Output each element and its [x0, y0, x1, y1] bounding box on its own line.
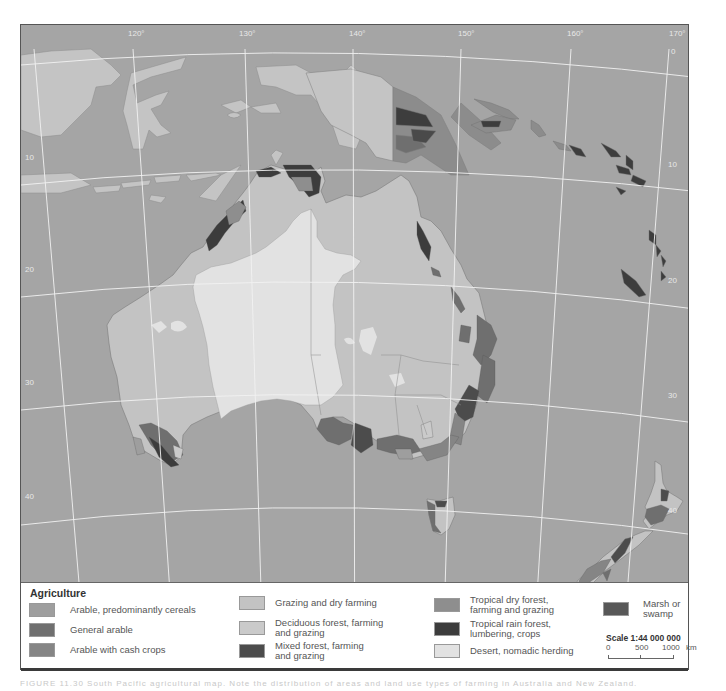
legend-item-general-arable: General arable [29, 623, 133, 637]
latitude-label-left-10: 10 [25, 153, 34, 162]
legend-label: Tropical rain forest, lumbering, crops [470, 619, 551, 639]
legend-item-desert: Desert, nomadic herding [434, 644, 574, 658]
scale-tick-0: 0 [606, 643, 610, 652]
legend-label: Marsh or swamp [643, 599, 688, 619]
longitude-label-130: 130° [239, 29, 256, 38]
scale-tick-500: 500 [635, 643, 648, 652]
legend-label: Desert, nomadic herding [470, 646, 574, 656]
legend-label: Tropical dry forest, farming and grazing [470, 595, 554, 615]
legend-label: Deciduous forest, farming and grazing [275, 618, 383, 638]
legend-swatch [239, 644, 265, 658]
figure-caption: FIGURE 11.30 South Pacific agricultural … [20, 679, 720, 688]
longitude-label-140: 140° [349, 29, 366, 38]
legend-swatch [239, 621, 265, 635]
scale-bar-line [608, 653, 674, 659]
legend-swatch [29, 603, 55, 617]
scale-ticks: 0 500 1000 km [606, 643, 696, 653]
latitude-label-left-30: 30 [25, 378, 34, 387]
longitude-label-120: 120° [128, 29, 145, 38]
latitude-label-left-40: 40 [25, 492, 34, 501]
legend-swatch [29, 643, 55, 657]
legend-item-arable-cash-crops: Arable with cash crops [29, 643, 166, 657]
legend-label: Arable with cash crops [70, 645, 166, 655]
legend-item-grazing-dry-farming: Grazing and dry farming [239, 596, 377, 610]
scale-unit: km [686, 643, 697, 652]
legend-title: Agriculture [30, 587, 86, 599]
longitude-label-150: 150° [458, 29, 475, 38]
map-legend: Agriculture Arable, predominantly cereal… [21, 582, 688, 668]
longitude-label-160: 160° [567, 29, 584, 38]
map-canvas [21, 25, 689, 670]
latitude-label-right-10: 10 [668, 160, 677, 169]
legend-swatch [434, 622, 460, 636]
scale-bar: Scale 1:44 000 000 0 500 1000 km [606, 633, 696, 659]
legend-item-arable-cereals: Arable, predominantly cereals [29, 603, 196, 617]
latitude-label-right-0: 0 [671, 47, 675, 56]
longitude-label-170: 170° [669, 29, 686, 38]
legend-item-tropical-dry-forest: Tropical dry forest, farming and grazing [434, 595, 554, 615]
legend-item-mixed-forest: Mixed forest, farming and grazing [239, 641, 364, 661]
legend-item-tropical-rain-forest: Tropical rain forest, lumbering, crops [434, 619, 551, 639]
legend-label: Mixed forest, farming and grazing [275, 641, 364, 661]
legend-item-marsh: Marsh or swamp [603, 599, 688, 619]
latitude-label-right-30: 30 [668, 391, 677, 400]
legend-swatch [29, 623, 55, 637]
legend-swatch [434, 644, 460, 658]
scale-title: Scale 1:44 000 000 [606, 633, 696, 643]
legend-label: Arable, predominantly cereals [70, 605, 196, 615]
legend-item-deciduous-forest: Deciduous forest, farming and grazing [239, 618, 383, 638]
legend-swatch [603, 602, 629, 616]
latitude-label-right-40: 40 [668, 506, 677, 515]
legend-swatch [239, 596, 265, 610]
latitude-label-left-20: 20 [25, 265, 34, 274]
map-frame: 120° 130° 140° 150° 160° 170° 10 20 30 4… [20, 24, 689, 670]
legend-label: General arable [70, 625, 133, 635]
latitude-label-right-20: 20 [668, 276, 677, 285]
legend-swatch [434, 598, 460, 612]
legend-label: Grazing and dry farming [275, 598, 377, 608]
scale-tick-1000: 1000 [662, 643, 680, 652]
